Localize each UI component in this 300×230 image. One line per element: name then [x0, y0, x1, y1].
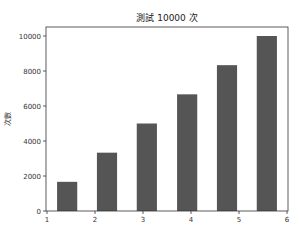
y-tick-label: 2000: [23, 173, 41, 181]
y-tick-label: 4000: [23, 138, 41, 146]
bar: [217, 65, 237, 211]
y-tick-label: 10000: [19, 33, 41, 41]
bar: [257, 36, 277, 211]
bars: [57, 36, 277, 211]
x-tick-label: 2: [93, 216, 97, 224]
x-tick-label: 6: [285, 216, 290, 224]
y-tick-label: 6000: [23, 103, 41, 111]
x-tick-label: 3: [141, 216, 145, 224]
bar-chart: 測試 10000 次 123456 0200040006000800010000…: [0, 0, 300, 230]
y-tick-label: 0: [37, 208, 41, 216]
bar: [57, 182, 77, 211]
y-axis-label: 次數: [3, 112, 12, 126]
x-tick-label: 4: [189, 216, 194, 224]
chart-title: 測試 10000 次: [136, 12, 197, 23]
bar: [97, 153, 117, 211]
x-axis: 123456: [45, 211, 290, 224]
y-axis: 0200040006000800010000: [19, 33, 46, 216]
bar: [177, 94, 197, 211]
x-tick-label: 1: [45, 216, 49, 224]
plot-frame: [46, 27, 288, 211]
bar: [137, 124, 157, 212]
y-tick-label: 8000: [23, 68, 41, 76]
x-tick-label: 5: [237, 216, 241, 224]
